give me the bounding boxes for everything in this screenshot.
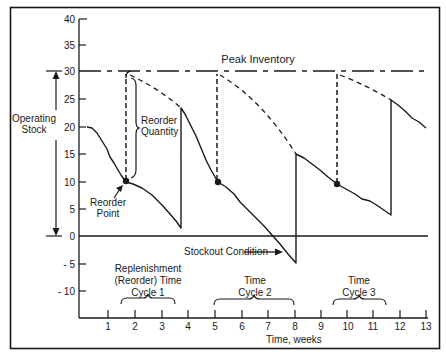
cycle1-label-line3: Cycle 1 <box>131 287 165 298</box>
operating-stock-indicator <box>46 71 62 236</box>
y-label-0: 0 <box>69 231 75 242</box>
x-label-9: 9 <box>318 321 324 332</box>
y-label-5: 5 <box>69 204 75 215</box>
x-label-8: 8 <box>292 321 298 332</box>
x-axis-title: Time, weeks <box>266 334 322 345</box>
cycle3-brace <box>333 295 386 305</box>
y-label-20: 20 <box>64 122 76 133</box>
x-label-13: 13 <box>420 321 432 332</box>
x-label-6: 6 <box>239 321 245 332</box>
y-label-neg5: - 5 <box>63 259 75 270</box>
x-label-10: 10 <box>342 321 354 332</box>
cycle1-label-line2: (Reorder) Time <box>114 275 182 286</box>
x-label-2: 2 <box>132 321 138 332</box>
cycle1-brace <box>121 294 175 304</box>
y-label-30: 30 <box>64 66 76 77</box>
reorder-point-label-line1: Reorder <box>90 197 127 208</box>
reorder-point-markers <box>123 178 340 187</box>
x-label-4: 4 <box>185 321 191 332</box>
x-label-7: 7 <box>265 321 271 332</box>
reorder-quantity-label-line1: Reorder <box>141 115 178 126</box>
x-label-12: 12 <box>394 321 406 332</box>
x-label-1: 1 <box>105 321 111 332</box>
y-label-40: 40 <box>64 14 76 25</box>
y-label-neg10: - 10 <box>58 286 76 297</box>
reorder-quantity-label-line2: Quantity <box>141 126 178 137</box>
inventory-curve <box>87 100 426 263</box>
inventory-chart: 40 35 30 25 20 15 10 5 0 - 5 - 10 1 2 3 … <box>0 0 446 358</box>
x-label-3: 3 <box>159 321 165 332</box>
y-label-25: 25 <box>64 94 76 105</box>
cycle3-label-line1: Time <box>348 275 370 286</box>
y-tick-labels: 40 35 30 25 20 15 10 5 0 - 5 - 10 <box>58 14 76 297</box>
cycle2-brace <box>214 295 294 305</box>
x-label-5: 5 <box>212 321 218 332</box>
operating-stock-label-line1: Operating <box>12 113 56 124</box>
cycle2-label-line1: Time <box>244 275 266 286</box>
cycle2-label-line2: Cycle 2 <box>238 287 272 298</box>
y-label-35: 35 <box>64 40 76 51</box>
x-tick-labels: 1 2 3 4 5 6 7 8 9 10 11 12 13 <box>105 321 432 332</box>
x-ticks <box>108 310 426 318</box>
operating-stock-label-line2: Stock <box>21 124 47 135</box>
x-label-11: 11 <box>368 321 379 332</box>
y-ticks <box>79 19 87 291</box>
reorder-quantity-brace <box>131 78 139 178</box>
y-label-10: 10 <box>64 177 76 188</box>
reorder-point-label-line2: Point <box>97 208 120 219</box>
y-label-15: 15 <box>64 149 76 160</box>
peak-inventory-label: Peak Inventory <box>221 53 295 65</box>
cycle1-label-line1: Replenishment <box>115 263 182 274</box>
